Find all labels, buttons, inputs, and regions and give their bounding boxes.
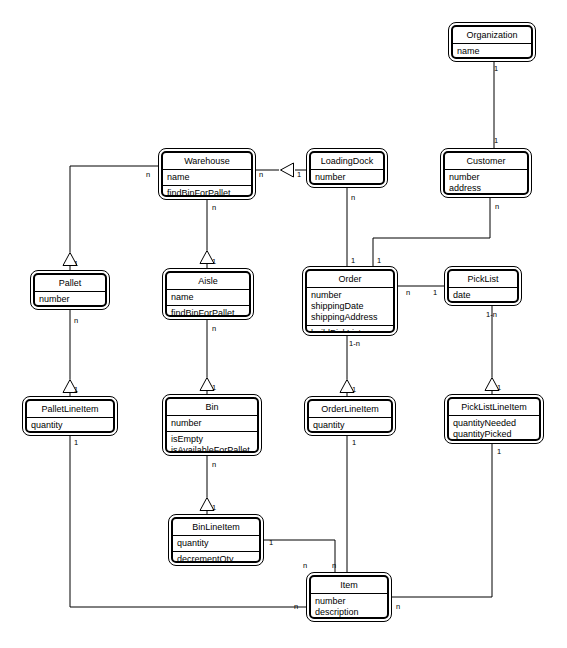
- class-box-inner: Itemnumberdescription: [309, 575, 389, 619]
- class-box-bin[interactable]: BinnumberisEmptyisAvailableForPallet: [162, 394, 262, 456]
- multiplicity-label: 1-n: [349, 339, 360, 348]
- multiplicity-label: 1: [212, 383, 216, 392]
- multiplicity-label: 1: [269, 538, 273, 547]
- attribute: address: [449, 183, 523, 194]
- class-name: Warehouse: [163, 153, 251, 170]
- class-box-picklistlineitem[interactable]: PickListLineItemquantityNeededquantityPi…: [444, 394, 544, 444]
- aggregation-triangle-icon: [281, 163, 294, 177]
- class-box-inner: WarehousenamefindBinForPallet: [161, 151, 253, 197]
- class-box-inner: Palletnumber: [33, 273, 107, 307]
- class-box-palletlineitem[interactable]: PalletLineItemquantity: [22, 396, 118, 436]
- attribute: number: [315, 172, 379, 183]
- attributes-compartment: name: [167, 290, 249, 306]
- multiplicity-label: 1: [74, 438, 78, 447]
- attributes-compartment: numberdescription: [311, 594, 387, 619]
- attribute: number: [449, 172, 523, 183]
- attributes-compartment: quantity: [27, 418, 113, 433]
- attribute: description: [315, 607, 383, 618]
- class-box-inner: OrderLineItemquantity: [307, 399, 393, 433]
- multiplicity-label: n: [212, 203, 216, 212]
- uml-class-diagram-canvas: OrganizationnameWarehousenamefindBinForP…: [0, 0, 567, 648]
- attributes-compartment: numbershippingDateshippingAddress: [307, 288, 393, 326]
- attribute: name: [167, 172, 247, 183]
- attributes-compartment: name: [453, 44, 531, 59]
- class-name: PickListLineItem: [449, 399, 539, 416]
- multiplicity-label: 1: [352, 385, 356, 394]
- multiplicity-label: n: [396, 602, 400, 611]
- class-name: LoadingDock: [311, 153, 383, 170]
- multiplicity-label: 1: [212, 503, 216, 512]
- class-box-item[interactable]: Itemnumberdescription: [306, 572, 392, 622]
- class-name: Customer: [445, 153, 527, 170]
- multiplicity-label: 1: [297, 170, 301, 179]
- operation: findBinForPallet: [171, 308, 245, 317]
- class-box-inner: PickListdate: [447, 269, 519, 303]
- multiplicity-label: n: [212, 460, 216, 469]
- attribute: quantity: [31, 420, 109, 431]
- operations-compartment: decrementQty: [173, 552, 259, 563]
- class-name: Pallet: [35, 275, 105, 292]
- attribute: date: [453, 290, 513, 301]
- class-name: Item: [311, 577, 387, 594]
- attribute: name: [457, 46, 527, 57]
- multiplicity-label: n: [212, 324, 216, 333]
- class-name: PalletLineItem: [27, 401, 113, 418]
- operations-compartment: isEmptyisAvailableForPallet: [167, 432, 257, 453]
- class-box-inner: Customernumberaddress: [443, 151, 529, 195]
- operation: isEmpty: [171, 434, 253, 445]
- attribute: quantity: [313, 420, 387, 431]
- attribute: shippingAddress: [311, 312, 389, 323]
- class-box-inner: LoadingDocknumber: [309, 151, 385, 185]
- attribute: shippingDate: [311, 301, 389, 312]
- class-name: Aisle: [167, 273, 249, 290]
- multiplicity-label: 1: [352, 438, 356, 447]
- class-name: BinLineItem: [173, 519, 259, 536]
- class-box-inner: PalletLineItemquantity: [25, 399, 115, 433]
- class-box-binlineitem[interactable]: BinLineItemquantitydecrementQty: [168, 514, 264, 566]
- multiplicity-label: 1: [74, 385, 78, 394]
- operation: findBinForPallet: [167, 188, 247, 197]
- multiplicity-label: 1-n: [486, 310, 497, 319]
- attribute: number: [39, 294, 101, 305]
- attributes-compartment: quantity: [173, 536, 259, 552]
- multiplicity-label: n: [74, 316, 78, 325]
- multiplicity-label: n: [146, 170, 150, 179]
- multiplicity-label: n: [303, 561, 307, 570]
- class-box-organization[interactable]: Organizationname: [448, 22, 536, 62]
- multiplicity-label: n: [351, 193, 355, 202]
- multiplicity-label: 1: [497, 383, 501, 392]
- multiplicity-label: n: [294, 602, 298, 611]
- class-box-inner: BinLineItemquantitydecrementQty: [171, 517, 261, 563]
- operation: decrementQty: [177, 554, 255, 563]
- operations-compartment: findBinForPallet: [167, 306, 249, 317]
- attributes-compartment: number: [167, 416, 257, 432]
- multiplicity-label: 1: [351, 256, 355, 265]
- operation: buildPickList: [311, 328, 389, 333]
- attribute: number: [311, 290, 389, 301]
- class-name: Order: [307, 271, 393, 288]
- relationship-line: [70, 166, 158, 252]
- attributes-compartment: date: [449, 288, 517, 303]
- operations-compartment: buildPickList: [307, 326, 393, 333]
- attribute: number: [171, 418, 253, 429]
- class-box-orderlineitem[interactable]: OrderLineItemquantity: [304, 396, 396, 436]
- attributes-compartment: number: [311, 170, 383, 185]
- class-box-customer[interactable]: Customernumberaddress: [440, 148, 532, 198]
- multiplicity-label: n: [406, 288, 410, 297]
- class-name: Organization: [453, 27, 531, 44]
- class-box-inner: PickListLineItemquantityNeededquantityPi…: [447, 397, 541, 441]
- attribute: quantityNeeded: [453, 418, 535, 429]
- multiplicity-label: n: [259, 170, 263, 179]
- class-box-picklist[interactable]: PickListdate: [444, 266, 522, 306]
- class-box-inner: AislenamefindBinForPallet: [165, 271, 251, 317]
- class-box-inner: BinnumberisEmptyisAvailableForPallet: [165, 397, 259, 453]
- attribute: number: [315, 596, 383, 607]
- relationship-edges-layer: [0, 0, 567, 648]
- class-box-order[interactable]: OrdernumbershippingDateshippingAddressbu…: [302, 266, 398, 336]
- class-box-warehouse[interactable]: WarehousenamefindBinForPallet: [158, 148, 256, 200]
- class-box-inner: OrdernumbershippingDateshippingAddressbu…: [305, 269, 395, 333]
- multiplicity-label: 1: [212, 257, 216, 266]
- class-box-loadingdock[interactable]: LoadingDocknumber: [306, 148, 388, 188]
- class-box-aisle[interactable]: AislenamefindBinForPallet: [162, 268, 254, 320]
- class-box-pallet[interactable]: Palletnumber: [30, 270, 110, 310]
